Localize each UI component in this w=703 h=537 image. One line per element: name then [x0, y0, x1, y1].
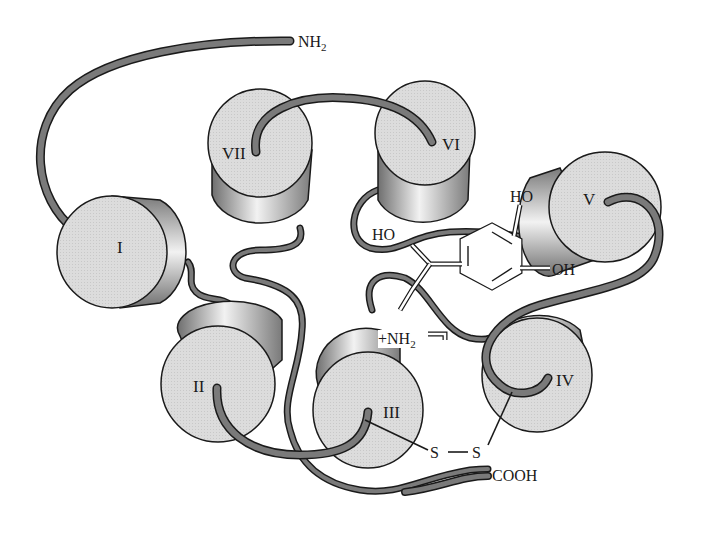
helix-label-IV: IV — [556, 371, 575, 390]
helix-label-VII: VII — [222, 144, 246, 163]
helix-I: I — [57, 196, 186, 308]
helix-VII: VII — [208, 89, 312, 223]
c-terminus-label: COOH — [492, 467, 538, 484]
sulfur-label-1: S — [430, 444, 439, 461]
helix-label-III: III — [383, 403, 400, 422]
sulfur-label-2: S — [472, 444, 481, 461]
helix-label-I: I — [117, 238, 123, 257]
helix-label-VI: VI — [442, 135, 460, 154]
helix-III: III — [313, 328, 423, 468]
helix-V: V — [519, 152, 661, 276]
ligand-hydroxyl-ring: OH — [552, 261, 576, 278]
n-terminus-label: NH2 — [298, 33, 327, 53]
helix-label-V: V — [583, 190, 596, 209]
ligand-hydroxyl-side: HO — [372, 226, 395, 243]
ligand-hydroxyl-top: HO — [510, 188, 533, 205]
receptor-diagram: I VII VI V II III IV — [0, 0, 703, 537]
helix-label-II: II — [193, 377, 205, 396]
